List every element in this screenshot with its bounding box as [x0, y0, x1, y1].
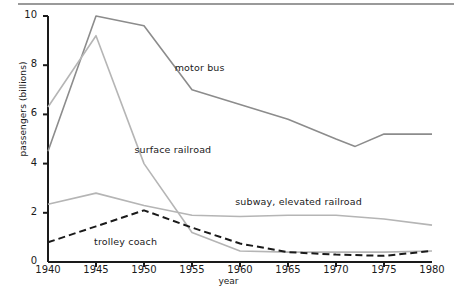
x-tick-label: 1980 [412, 264, 452, 275]
x-tick-label: 1940 [28, 264, 68, 275]
x-tick-label: 1970 [316, 264, 356, 275]
series-label-motor-bus: motor bus [175, 62, 225, 73]
x-tick-label: 1945 [76, 264, 116, 275]
series-line-surface-railroad [48, 36, 432, 252]
chart-container: 0246810 19401945195019551960196519701975… [0, 0, 457, 297]
series-label-subway-elevated-railroad: subway, elevated railroad [235, 196, 362, 207]
series-label-trolley-coach: trolley coach [94, 236, 157, 247]
y-tick-label: 10 [15, 9, 37, 20]
y-axis-title: passengers (billions) [18, 39, 28, 179]
x-tick-label: 1960 [220, 264, 260, 275]
chart-plot-area [0, 0, 457, 297]
chart-axes [43, 16, 432, 267]
x-tick-label: 1950 [124, 264, 164, 275]
x-axis-title: year [0, 276, 457, 286]
x-tick-label: 1955 [172, 264, 212, 275]
chart-series-lines [48, 16, 432, 256]
y-tick-label: 2 [15, 206, 37, 217]
series-line-motor-bus [48, 16, 432, 151]
x-tick-label: 1965 [268, 264, 308, 275]
x-tick-label: 1975 [364, 264, 404, 275]
series-label-surface-railroad: surface railroad [134, 144, 211, 155]
